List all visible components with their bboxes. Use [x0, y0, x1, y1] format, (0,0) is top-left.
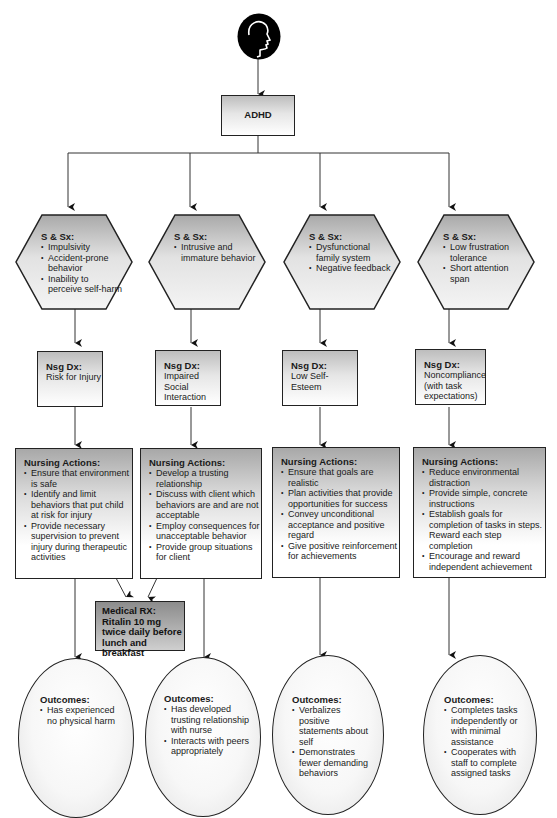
nursing-dx-box-2: Nsg Dx: Impaired Social Interaction [155, 350, 221, 406]
na-item: Discuss with client which behaviors are … [149, 489, 261, 521]
outcome-item: Completes tasks independently or with mi… [444, 705, 524, 747]
ss-item: Accident-prone behavior [41, 253, 125, 274]
ss-item: Low frustration tolerance [443, 242, 527, 263]
rx-title: Medical RX: [102, 606, 184, 617]
dx-title: Nsg Dx: [164, 360, 220, 371]
nursing-actions-box-2: Nursing Actions: Develop a trusting rela… [140, 448, 262, 579]
ss-title: S & Sx: [174, 231, 258, 242]
ss-item: Inability to perceive self-harm [41, 274, 125, 295]
na-item: Encourage and reward independent achieve… [422, 551, 545, 572]
ss-title: S & Sx: [309, 231, 393, 242]
outcomes-title: Outcomes: [40, 694, 120, 705]
na-item: Develop a trusting relationship [149, 468, 261, 489]
ss-item: Short attention span [443, 263, 527, 284]
nursing-actions-box-1: Nursing Actions: Ensure that environment… [15, 448, 133, 579]
nursing-dx-box-3: Nsg Dx: Low Self-Esteem [282, 350, 358, 406]
na-item: Ensure that goals are realistic [281, 467, 399, 488]
dx-title: Nsg Dx: [424, 359, 485, 370]
signs-symptoms-hexagon-1: S & Sx: Impulsivity Accident-prone behav… [15, 214, 133, 310]
outcome-item: Verbalizes positive statements about sel… [292, 705, 372, 747]
na-item: Convey unconditional acceptance and posi… [281, 509, 399, 541]
nursing-actions-box-4: Nursing Actions: Reduce environmental di… [413, 447, 546, 578]
outcomes-title: Outcomes: [444, 694, 524, 705]
na-item: Establish goals for completion of tasks … [422, 509, 545, 551]
nursing-actions-box-3: Nursing Actions: Ensure that goals are r… [272, 447, 400, 578]
na-item: Plan activities that provide opportuniti… [281, 488, 399, 509]
na-item: Employ consequences for unacceptable beh… [149, 521, 261, 542]
na-title: Nursing Actions: [422, 456, 545, 467]
na-item: Provide group situations for client [149, 542, 261, 563]
nursing-dx-box-1: Nsg Dx: Risk for Injury [37, 351, 103, 407]
nursing-dx-box-4: Nsg Dx: Noncompliance (with task expecta… [415, 349, 486, 405]
medical-rx-box: Medical RX: Ritalin 10 mg twice daily be… [95, 601, 185, 651]
outcomes-title: Outcomes: [164, 693, 252, 704]
na-title: Nursing Actions: [281, 456, 399, 467]
na-item: Provide necessary supervision to prevent… [24, 521, 132, 563]
dx-text: Noncompliance (with task expectations) [424, 370, 485, 402]
dx-text: Risk for Injury [46, 372, 102, 383]
dx-text: Impaired Social Interaction [164, 371, 220, 403]
ss-item: Impulsivity [41, 242, 125, 253]
outcomes-oval-3: Outcomes: Verbalizes positive statements… [272, 655, 384, 815]
dx-title: Nsg Dx: [291, 360, 357, 371]
outcome-item: Cooperates with staff to complete assign… [444, 747, 524, 779]
ss-item: Negative feedback [309, 263, 393, 274]
dx-text: Low Self-Esteem [291, 371, 357, 392]
dx-title: Nsg Dx: [46, 361, 102, 372]
outcomes-title: Outcomes: [292, 694, 372, 705]
outcomes-oval-2: Outcomes: Has developed trusting relatio… [145, 657, 261, 817]
rx-text: Ritalin 10 mg twice daily before lunch a… [102, 617, 184, 659]
outcome-item: Interacts with peers appropriately [164, 736, 252, 757]
outcome-item: Has developed trusting relationship with… [164, 704, 252, 736]
na-item: Identify and limit behaviors that put ch… [24, 489, 132, 521]
adhd-root-box: ADHD [221, 95, 295, 136]
signs-symptoms-hexagon-4: S & Sx: Low frustration tolerance Short … [417, 214, 535, 310]
na-title: Nursing Actions: [149, 457, 261, 468]
adhd-label: ADHD [244, 110, 271, 121]
na-item: Give positive reinforcement for achievem… [281, 541, 399, 562]
outcomes-oval-1: Outcomes: Has experienced no physical ha… [18, 658, 134, 818]
na-title: Nursing Actions: [24, 457, 132, 468]
outcome-item: Demonstrates fewer demanding behaviors [292, 747, 372, 779]
ss-title: S & Sx: [443, 231, 527, 242]
na-item: Reduce environmental distraction [422, 467, 545, 488]
outcome-item: Has experienced no physical harm [40, 705, 120, 726]
signs-symptoms-hexagon-2: S & Sx: Intrusive and immature behavior [148, 214, 266, 310]
outcomes-oval-4: Outcomes: Completes tasks independently … [423, 655, 537, 815]
ss-item: Dysfunctional family system [309, 242, 393, 263]
ss-title: S & Sx: [41, 231, 125, 242]
signs-symptoms-hexagon-3: S & Sx: Dysfunctional family system Nega… [283, 214, 401, 310]
na-item: Ensure that environment is safe [24, 468, 132, 489]
head-profile-icon [237, 13, 281, 60]
na-item: Provide simple, concrete instructions [422, 488, 545, 509]
ss-item: Intrusive and immature behavior [174, 242, 258, 263]
